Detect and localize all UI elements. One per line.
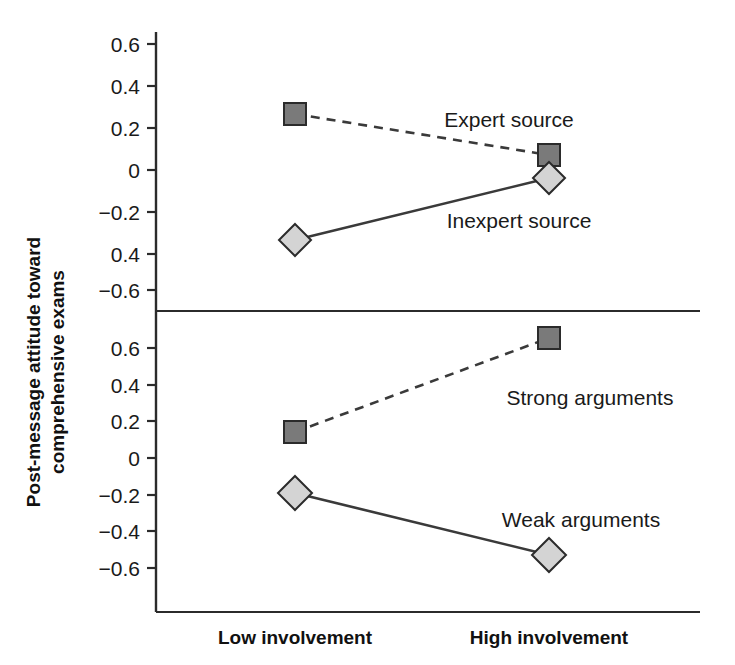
y-tick-label-top-1: 0.4 (111, 75, 141, 98)
series-line-strong-arguments (295, 338, 549, 432)
y-tick-label-bottom-6: −0.6 (99, 557, 140, 580)
data-point-expert-source-low[interactable] (284, 103, 306, 125)
chart-figure: 0.6 0.4 0.2 0 −0.2 0.4 −0.6 0.6 0.4 0.2 … (0, 0, 735, 665)
y-tick-label-bottom-4: −0.2 (99, 484, 140, 507)
y-tick-label-bottom-0: 0.6 (111, 337, 140, 360)
x-axis-category-labels: Low involvement High involvement (218, 627, 629, 648)
annotation-weak-arguments: Weak arguments (502, 508, 660, 531)
bottom-panel-tick-labels: 0.6 0.4 0.2 0 −0.2 −0.4 −0.6 (99, 337, 141, 580)
y-tick-label-top-0: 0.6 (111, 33, 140, 56)
series-strong-arguments (284, 327, 560, 443)
top-panel-tick-labels: 0.6 0.4 0.2 0 −0.2 0.4 −0.6 (99, 33, 141, 302)
y-tick-label-top-6: −0.6 (99, 279, 140, 302)
data-point-strong-arguments-low[interactable] (284, 421, 306, 443)
data-point-weak-arguments-low[interactable] (278, 476, 312, 510)
data-point-inexpert-source-low[interactable] (279, 224, 311, 256)
top-panel-ticks (147, 44, 156, 290)
chart-canvas: 0.6 0.4 0.2 0 −0.2 0.4 −0.6 0.6 0.4 0.2 … (0, 0, 735, 665)
y-axis-title-line1: Post-message attitude toward (23, 237, 44, 507)
annotation-strong-arguments: Strong arguments (507, 386, 674, 409)
top-panel-annotations: Expert source Inexpert source (444, 108, 591, 232)
y-tick-label-bottom-1: 0.4 (111, 374, 141, 397)
y-tick-label-top-3: 0 (128, 159, 140, 182)
bottom-panel-annotations: Strong arguments Weak arguments (502, 386, 674, 531)
y-tick-label-top-5: 0.4 (111, 243, 141, 266)
y-axis-title: Post-message attitude toward comprehensi… (23, 237, 68, 507)
y-axis-title-line2: comprehensive exams (47, 270, 68, 474)
bottom-panel-ticks (147, 348, 156, 568)
y-tick-label-top-4: −0.2 (99, 201, 140, 224)
y-tick-label-bottom-3: 0 (128, 447, 140, 470)
y-tick-label-top-2: 0.2 (111, 117, 140, 140)
y-tick-label-bottom-2: 0.2 (111, 410, 140, 433)
annotation-expert-source: Expert source (444, 108, 574, 131)
x-category-label-low: Low involvement (218, 627, 373, 648)
y-tick-label-bottom-5: −0.4 (99, 520, 141, 543)
x-category-label-high: High involvement (470, 627, 629, 648)
data-point-weak-arguments-high[interactable] (532, 538, 566, 572)
data-point-strong-arguments-high[interactable] (538, 327, 560, 349)
annotation-inexpert-source: Inexpert source (447, 209, 592, 232)
